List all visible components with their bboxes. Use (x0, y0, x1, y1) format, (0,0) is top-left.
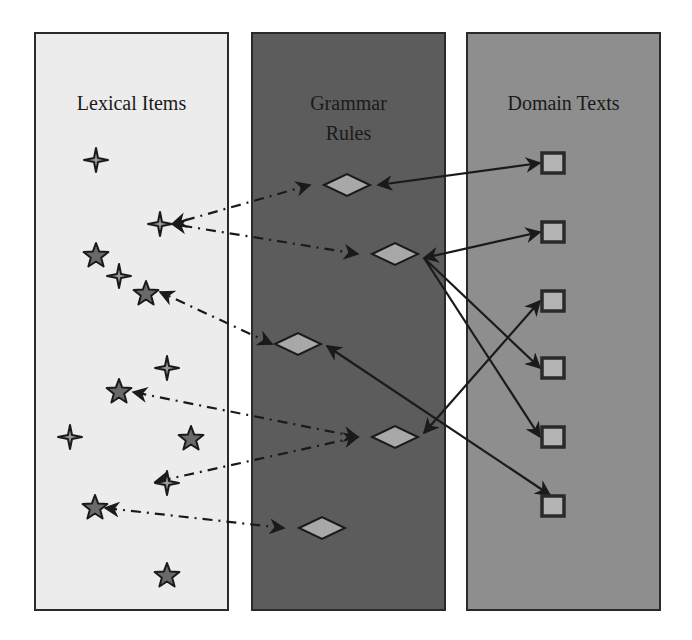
panel-domain-title: Domain Texts (507, 92, 619, 114)
domain-text-square-icon (542, 153, 564, 173)
domain-text-square-icon (542, 496, 564, 516)
panel-grammar-title: Grammar (310, 92, 387, 114)
panel-domain: Domain Texts (467, 33, 660, 610)
panel-lexical-background (35, 33, 228, 610)
panel-grammar: GrammarRules (252, 33, 445, 610)
domain-text-square-icon (542, 358, 564, 378)
panel-grammar-background (252, 33, 445, 610)
panel-grammar-title: Rules (326, 122, 372, 144)
lexicon-grammar-domain-diagram: Lexical ItemsGrammarRulesDomain Texts (0, 0, 692, 640)
panel-lexical: Lexical Items (35, 33, 228, 610)
panel-domain-background (467, 33, 660, 610)
panels-layer: Lexical ItemsGrammarRulesDomain Texts (35, 33, 660, 610)
panel-lexical-title: Lexical Items (77, 92, 187, 114)
domain-text-square-icon (542, 222, 564, 242)
domain-text-square-icon (542, 427, 564, 447)
domain-text-square-icon (542, 291, 564, 311)
